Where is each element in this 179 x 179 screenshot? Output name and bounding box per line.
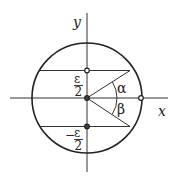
beta-label: β — [117, 101, 125, 117]
y-axis-label: y — [72, 14, 82, 30]
eps-pos-numerator: ε — [74, 72, 80, 86]
x-intercept-point — [139, 96, 144, 101]
diagram-canvas: y x ε 2 − ε 2 α β — [0, 0, 179, 179]
eps-pos-denominator: 2 — [75, 85, 83, 99]
x-axis-label: x — [158, 103, 166, 119]
upper-point — [85, 68, 90, 73]
center-point — [85, 96, 90, 101]
alpha-label: α — [117, 80, 127, 96]
eps-neg-denominator: 2 — [75, 139, 83, 153]
lower-point — [85, 124, 90, 129]
eps-neg-numerator: ε — [74, 126, 80, 140]
